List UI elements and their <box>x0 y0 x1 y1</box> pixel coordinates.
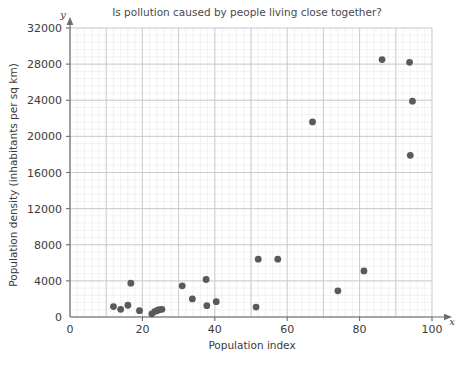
data-point <box>255 256 262 263</box>
y-tick-label: 24000 <box>27 94 62 107</box>
data-point <box>136 307 143 314</box>
y-tick-label: 8000 <box>34 239 62 252</box>
y-tick-label: 0 <box>55 311 62 324</box>
data-point <box>110 303 117 310</box>
y-tick-label: 4000 <box>34 275 62 288</box>
y-axis-label: Population density (inhabitants per sq k… <box>7 63 19 286</box>
y-tick-label: 28000 <box>27 58 62 71</box>
x-axis-label: Population index <box>208 339 295 351</box>
chart-title: Is pollution caused by people living clo… <box>112 6 382 18</box>
data-point <box>406 59 413 66</box>
data-point <box>309 119 316 126</box>
y-tick-label: 32000 <box>27 22 62 35</box>
x-tick-label: 60 <box>280 323 294 336</box>
y-axis-tick-labels: 040008000120001600020000240002800032000 <box>27 22 62 324</box>
data-point <box>407 152 414 159</box>
data-point <box>159 306 166 313</box>
data-point <box>361 268 368 275</box>
data-point <box>179 282 186 289</box>
chart-canvas: 020406080100 040008000120001600020000240… <box>0 0 461 365</box>
data-point <box>274 256 281 263</box>
x-axis-letter: x <box>449 316 455 327</box>
x-tick-label: 40 <box>208 323 222 336</box>
x-axis-tick-labels: 020406080100 <box>67 323 443 336</box>
data-point <box>213 298 220 305</box>
y-tick-label: 20000 <box>27 130 62 143</box>
data-point <box>253 304 260 311</box>
data-point <box>125 302 132 309</box>
data-point <box>334 287 341 294</box>
data-point <box>203 276 210 283</box>
x-tick-label: 20 <box>135 323 149 336</box>
y-tick-label: 16000 <box>27 167 62 180</box>
scatter-chart: 020406080100 040008000120001600020000240… <box>0 0 461 365</box>
data-point <box>409 98 416 105</box>
x-tick-label: 100 <box>422 323 443 336</box>
data-point <box>117 306 124 313</box>
data-point <box>189 296 196 303</box>
data-point <box>379 56 386 63</box>
data-point <box>203 302 210 309</box>
y-axis-letter: y <box>59 9 66 20</box>
axes <box>67 17 452 320</box>
x-tick-label: 80 <box>353 323 367 336</box>
x-tick-label: 0 <box>67 323 74 336</box>
data-point <box>127 280 134 287</box>
y-tick-label: 12000 <box>27 203 62 216</box>
